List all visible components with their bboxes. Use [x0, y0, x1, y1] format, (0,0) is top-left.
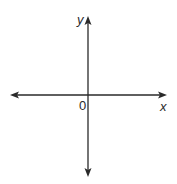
x-axis-label: x — [159, 99, 167, 114]
y-axis-label: y — [76, 12, 85, 27]
coordinate-axes-diagram: y 0 x — [0, 0, 177, 184]
origin-label: 0 — [79, 98, 86, 113]
